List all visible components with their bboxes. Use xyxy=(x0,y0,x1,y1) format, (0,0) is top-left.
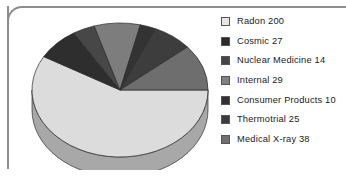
legend-item-label: Medical X-ray 38 xyxy=(237,135,310,144)
pie-chart xyxy=(24,14,216,170)
legend-item[interactable]: Radon 200 xyxy=(221,12,346,32)
legend-item-label: Internal 29 xyxy=(237,76,283,85)
legend-swatch-icon xyxy=(221,56,230,65)
legend-item-label: Radon 200 xyxy=(237,17,284,26)
page-frame-top-rule xyxy=(22,6,346,8)
legend-item[interactable]: Cosmic 27 xyxy=(221,32,346,52)
legend-swatch-icon xyxy=(221,135,230,144)
legend-item-label: Nuclear Medicine 14 xyxy=(237,56,325,65)
legend-item-label: Consumer Products 10 xyxy=(237,96,336,105)
legend-item[interactable]: Medical X-ray 38 xyxy=(221,130,346,150)
legend-item[interactable]: Thermotrial 25 xyxy=(221,110,346,130)
legend-swatch-icon xyxy=(221,17,230,26)
legend-item[interactable]: Internal 29 xyxy=(221,71,346,91)
legend-item[interactable]: Nuclear Medicine 14 xyxy=(221,51,346,71)
figure-container: Radon 200Cosmic 27Nuclear Medicine 14Int… xyxy=(0,0,346,179)
legend-swatch-icon xyxy=(221,96,230,105)
legend-swatch-icon xyxy=(221,115,230,124)
legend-item-label: Cosmic 27 xyxy=(237,37,283,46)
page-frame-left-rule xyxy=(7,6,9,169)
chart-legend: Radon 200Cosmic 27Nuclear Medicine 14Int… xyxy=(221,12,346,149)
legend-swatch-icon xyxy=(221,37,230,46)
legend-item-label: Thermotrial 25 xyxy=(237,115,300,124)
legend-swatch-icon xyxy=(221,76,230,85)
page-frame-corner xyxy=(7,6,23,22)
legend-item[interactable]: Consumer Products 10 xyxy=(221,90,346,110)
